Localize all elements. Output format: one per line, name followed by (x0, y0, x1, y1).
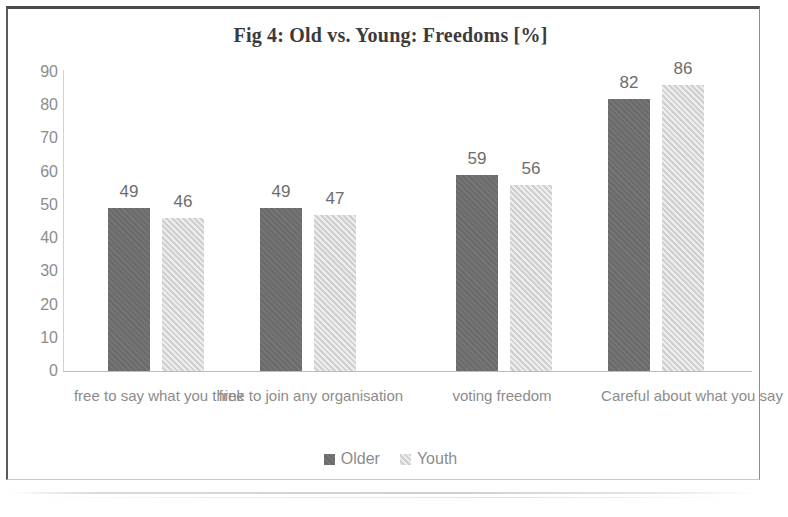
scan-artifact-line (8, 492, 756, 494)
chart-title: Fig 4: Old vs. Young: Freedoms [%] (0, 24, 781, 47)
bar-youth-1[interactable] (314, 215, 356, 371)
bar-youth-3[interactable] (662, 85, 704, 371)
legend-swatch-icon (324, 454, 335, 465)
bar-group: 4946 (108, 72, 204, 371)
bar-group: 8286 (608, 72, 704, 371)
y-axis-tick-80: 80 (14, 96, 58, 114)
y-axis-tick-10: 10 (14, 329, 58, 347)
legend-label: Older (341, 450, 380, 468)
bar-value-label: 86 (653, 59, 713, 79)
bar-value-label: 56 (501, 159, 561, 179)
bar-group: 4947 (260, 72, 356, 371)
bar-group: 5956 (456, 72, 552, 371)
legend-item-youth[interactable]: Youth (400, 450, 457, 468)
bar-youth-0[interactable] (162, 218, 204, 371)
y-axis-tick-70: 70 (14, 129, 58, 147)
x-axis-category-label: Careful about what you say (592, 385, 788, 407)
y-axis-tick-40: 40 (14, 229, 58, 247)
y-axis-tick-20: 20 (14, 296, 58, 314)
y-axis-tick-90: 90 (14, 63, 58, 81)
legend-swatch-icon (400, 454, 411, 465)
legend-item-older[interactable]: Older (324, 450, 380, 468)
y-axis-tick-50: 50 (14, 196, 58, 214)
chart-legend: OlderYouth (0, 450, 781, 468)
y-axis-tick-60: 60 (14, 163, 58, 181)
y-axis-tick-0: 0 (14, 362, 58, 380)
x-axis-category-label: free to join any organisation (216, 385, 406, 407)
plot-area: 4946494759568286 (64, 72, 752, 371)
bar-youth-2[interactable] (510, 185, 552, 371)
bar-value-label: 49 (251, 182, 311, 202)
bar-value-label: 82 (599, 73, 659, 93)
bar-value-label: 47 (305, 189, 365, 209)
scan-artifact-line-secondary (30, 497, 730, 498)
x-axis-category-label: voting freedom (402, 385, 602, 407)
bar-value-label: 59 (447, 149, 507, 169)
bar-value-label: 49 (99, 182, 159, 202)
x-axis-line (63, 371, 752, 372)
legend-label: Youth (417, 450, 457, 468)
bar-older-2[interactable] (456, 175, 498, 371)
y-axis-tick-labels: 9080706050403020100 (8, 0, 58, 517)
bar-older-3[interactable] (608, 99, 650, 371)
y-axis-tick-30: 30 (14, 262, 58, 280)
bar-older-1[interactable] (260, 208, 302, 371)
bar-older-0[interactable] (108, 208, 150, 371)
bar-value-label: 46 (153, 192, 213, 212)
